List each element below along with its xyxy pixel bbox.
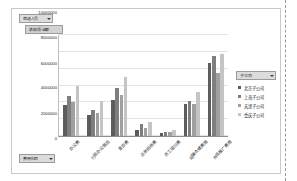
bar[interactable] — [63, 105, 67, 136]
x-axis-label-cell: 员工培训费 — [155, 138, 179, 170]
plot-area: 0200000040000006000000800000010000000120… — [58, 35, 228, 137]
chevron-down-icon — [49, 158, 53, 160]
bar[interactable] — [135, 130, 139, 136]
bar[interactable] — [192, 104, 196, 136]
bar[interactable] — [111, 100, 115, 136]
legend-swatch-icon — [238, 95, 241, 98]
legend-swatch-icon — [238, 104, 241, 107]
bar[interactable] — [208, 63, 212, 136]
page-break-line — [285, 0, 286, 181]
legend-item[interactable]: 天津子公司 — [238, 101, 282, 110]
x-axis-label-cell: 业务招待费 — [131, 138, 155, 170]
bar[interactable] — [184, 104, 188, 136]
y-axis-tick-label: 12000000 — [38, 0, 57, 86]
pivot-chart-frame[interactable]: 筛选人员 求和项:金额 费用科目 子公司 0200000040000006000… — [11, 8, 281, 174]
bar[interactable] — [160, 133, 164, 136]
bar[interactable] — [87, 115, 91, 136]
bar[interactable] — [168, 132, 172, 136]
bar[interactable] — [120, 95, 124, 136]
bar[interactable] — [164, 132, 168, 136]
bar-group — [156, 35, 180, 136]
x-axis-tick-label: 差旅费 — [116, 139, 129, 152]
x-axis-tick-label: 办公费 — [68, 139, 81, 152]
legend-item-label: 天津子公司 — [244, 103, 264, 109]
legend-item[interactable]: 重庆子公司 — [238, 110, 282, 119]
bar[interactable] — [212, 56, 216, 136]
bar[interactable] — [144, 128, 148, 136]
bar-group — [83, 35, 107, 136]
axis-field-button[interactable]: 费用科目 — [19, 154, 55, 163]
x-axis-label-cell: 办公费 — [58, 138, 82, 170]
bar-groups — [59, 35, 228, 136]
bar[interactable] — [91, 110, 95, 137]
bar[interactable] — [220, 54, 224, 136]
x-axis-label-cell: 差旅费 — [107, 138, 131, 170]
legend-swatch-icon — [238, 113, 241, 116]
bar[interactable] — [188, 101, 192, 136]
bar-group — [204, 35, 228, 136]
bar[interactable] — [76, 86, 80, 137]
legend-item[interactable]: 上海子公司 — [238, 92, 282, 101]
bar-group — [59, 35, 83, 136]
legend-field-label: 子公司 — [240, 72, 251, 80]
x-axis-label-cell: 市场推广费用 — [204, 138, 228, 170]
bar[interactable] — [67, 96, 71, 136]
report-filter-field-label: 筛选人员 — [23, 15, 38, 23]
chevron-down-icon — [270, 75, 274, 77]
x-axis-labels: 办公费行政办公用品差旅费业务招待费员工培训费运输仓储费用市场推广费用 — [58, 138, 228, 170]
bar[interactable] — [196, 92, 200, 136]
legend-item[interactable]: 北京子公司 — [238, 83, 282, 92]
bar[interactable] — [148, 122, 152, 136]
legend-item-label: 重庆子公司 — [244, 112, 264, 118]
x-axis-tick-label: 市场推广费用 — [211, 139, 232, 160]
x-axis-label-cell: 行政办公用品 — [82, 138, 106, 170]
bar[interactable] — [140, 124, 144, 136]
bar[interactable] — [216, 73, 220, 136]
x-axis-label-cell: 运输仓储费用 — [179, 138, 203, 170]
bar-group — [131, 35, 155, 136]
bar[interactable] — [100, 101, 104, 136]
bar[interactable] — [172, 130, 176, 136]
legend-swatch-icon — [238, 86, 241, 89]
chart-legend[interactable]: 北京子公司上海子公司天津子公司重庆子公司 — [238, 83, 282, 119]
legend-item-label: 北京子公司 — [244, 85, 264, 91]
bar-group — [180, 35, 204, 136]
bar[interactable] — [71, 102, 75, 136]
legend-field-button[interactable]: 子公司 — [236, 71, 276, 80]
bar[interactable] — [115, 88, 119, 136]
worksheet-canvas: 筛选人员 求和项:金额 费用科目 子公司 0200000040000006000… — [0, 0, 297, 181]
bar[interactable] — [96, 113, 100, 136]
bar-group — [107, 35, 131, 136]
legend-item-label: 上海子公司 — [244, 94, 264, 100]
bar[interactable] — [124, 77, 128, 136]
axis-field-label: 费用科目 — [23, 155, 38, 163]
